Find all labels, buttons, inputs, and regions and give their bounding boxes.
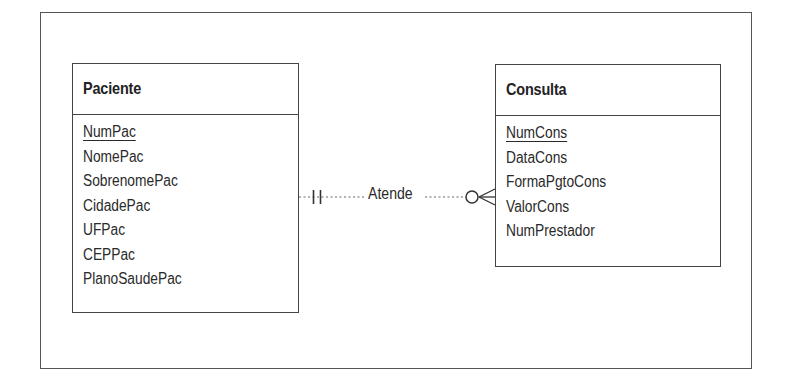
- entity-paciente[interactable]: Paciente NumPac NomePac SobrenomePac Cid…: [72, 63, 299, 313]
- attribute: SobrenomePac: [83, 169, 298, 194]
- attribute: NumPrestador: [506, 219, 720, 244]
- attribute: UFPac: [83, 218, 298, 243]
- entity-title: Consulta: [496, 65, 720, 116]
- entity-consulta[interactable]: Consulta NumCons DataCons FormaPgtoCons …: [495, 64, 721, 267]
- attribute: NomePac: [83, 145, 298, 170]
- attribute: CEPPac: [83, 243, 298, 268]
- attribute: ValorCons: [506, 195, 720, 220]
- attribute-list: NumPac NomePac SobrenomePac CidadePac UF…: [73, 115, 298, 292]
- attribute-primary-key: NumPac: [83, 120, 298, 145]
- attribute-list: NumCons DataCons FormaPgtoCons ValorCons…: [496, 116, 720, 244]
- attribute: FormaPgtoCons: [506, 170, 720, 195]
- relationship-label: Atende: [364, 185, 423, 203]
- attribute: PlanoSaudePac: [83, 267, 298, 292]
- entity-title: Paciente: [73, 64, 298, 115]
- attribute: CidadePac: [83, 194, 298, 219]
- attribute-primary-key: NumCons: [506, 121, 720, 146]
- attribute: DataCons: [506, 146, 720, 171]
